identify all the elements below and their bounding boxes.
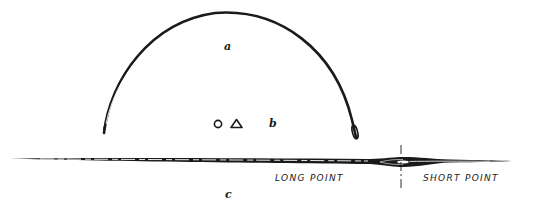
circle-cross-section-icon (214, 120, 221, 127)
label-a: a (224, 41, 231, 52)
label-c: c (225, 189, 232, 200)
long-point-label: LONG POINT (275, 174, 344, 183)
label-b: b (269, 118, 277, 129)
curved-needle (103, 13, 359, 140)
needle-figure: a b c LONG POINT SHORT POINT (0, 0, 546, 202)
short-point-label: SHORT POINT (423, 174, 499, 183)
triangle-cross-section-icon (231, 120, 242, 128)
cross-section-shapes (214, 120, 242, 128)
